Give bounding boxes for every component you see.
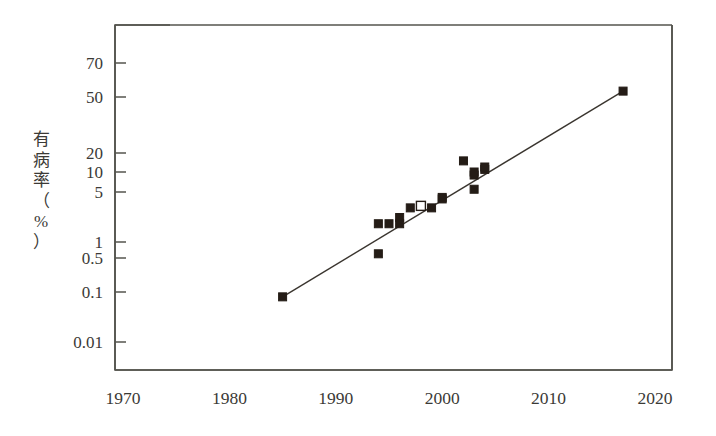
x-tick-label: 2000 [425,388,460,408]
y-tick-label: 5 [95,183,104,202]
y-axis-label-char-2: 率 [26,171,56,192]
x-tick-label: 1970 [106,388,141,408]
data-point [459,157,467,165]
axis-frame [115,25,672,370]
y-tick-label: 20 [86,144,103,163]
data-point [619,87,627,95]
x-tick-label: 2010 [531,388,566,408]
x-tick-label: 1980 [212,388,247,408]
data-point [374,220,382,228]
data-point [438,193,446,201]
x-axis-ticks: 197019801990200020102020 [106,388,673,408]
y-axis-ticks: 70502010510.50.10.01 [73,54,126,352]
data-point [428,204,436,212]
trend-line [283,91,623,297]
trend-line-group [283,91,623,297]
y-axis-label-char-4: % [26,212,56,233]
y-tick-label: 0.01 [73,333,103,352]
y-tick-label: 0.5 [82,249,103,268]
x-tick-label: 1990 [318,388,353,408]
y-axis-label-char-1: 病 [26,151,56,172]
y-tick-label: 0.1 [82,283,103,302]
y-axis-label: 有 病 率 （ % ） [26,130,56,253]
y-tick-label: 70 [86,54,103,73]
y-axis-label-char-0: 有 [26,130,56,151]
data-point [279,293,287,301]
chart-container: 有 病 率 （ % ） 70502010510.50.10.01 1970198… [0,0,716,436]
data-point-open [416,201,425,210]
data-point [374,250,382,258]
data-point [470,168,478,176]
data-point [385,220,393,228]
data-point [396,220,404,228]
plot-frame [115,25,672,370]
data-point [470,185,478,193]
y-axis-label-char-5: ） [26,233,56,254]
data-point [481,163,489,171]
y-axis-label-char-3: （ [26,192,56,213]
x-tick-label: 2020 [638,388,673,408]
data-point [406,204,414,212]
y-tick-label: 10 [86,163,103,182]
y-tick-label: 50 [86,88,103,107]
scatter-plot: 70502010510.50.10.01 1970198019902000201… [0,0,716,436]
